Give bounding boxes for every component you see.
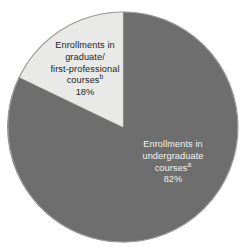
pie-label-undergraduate-line-3: coursesa: [126, 163, 220, 175]
pie-label-graduate-line-4: coursesb: [36, 75, 134, 87]
pie-chart-graphic: [0, 0, 246, 251]
pie-label-graduate: Enrollments in graduate/ first-professio…: [36, 40, 134, 99]
pie-label-graduate-line-4-text: courses: [67, 75, 100, 85]
pie-value-graduate: 18%: [36, 87, 134, 99]
pie-label-graduate-line-2: graduate/: [36, 52, 134, 64]
pie-label-undergraduate: Enrollments in undergraduate coursesa 82…: [126, 139, 220, 186]
pie-value-undergraduate: 82%: [126, 174, 220, 186]
pie-label-graduate-line-3: first-professional: [36, 64, 134, 76]
pie-label-undergraduate-line-3-text: courses: [155, 163, 188, 173]
pie-label-undergraduate-line-2: undergraduate: [126, 151, 220, 163]
pie-label-undergraduate-line-1: Enrollments in: [126, 139, 220, 151]
footnote-marker-a: a: [188, 160, 192, 167]
pie-chart-figure: Enrollments in undergraduate coursesa 82…: [0, 0, 246, 251]
footnote-marker-b: b: [100, 73, 104, 80]
pie-label-graduate-line-1: Enrollments in: [36, 40, 134, 52]
